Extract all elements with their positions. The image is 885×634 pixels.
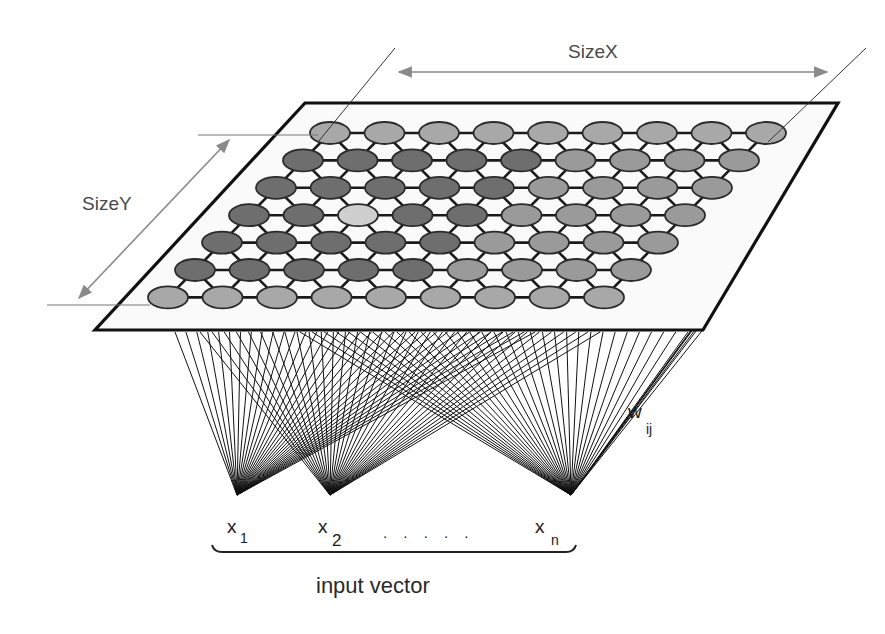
input-x1-main: x [227, 516, 237, 537]
lattice-node [557, 259, 597, 281]
lattice-node [583, 177, 623, 199]
lattice-node [365, 122, 405, 144]
input-labels: x 1 x 2 . . . . . x n [227, 516, 559, 550]
lattice-node [230, 259, 270, 281]
lattice-node [419, 122, 459, 144]
lattice-node [447, 149, 487, 171]
lattice-node [502, 259, 542, 281]
lattice-node [175, 259, 215, 281]
lattice-node [583, 122, 623, 144]
lattice-node [257, 286, 297, 308]
lattice-node [420, 232, 460, 254]
som-diagram: SizeX SizeY w ij x 1 x 2 . . . . . x n i… [0, 0, 885, 634]
lattice-node [283, 149, 323, 171]
weights-label-main: w [627, 401, 642, 422]
lattice-node [365, 177, 405, 199]
input-xn-main: x [535, 516, 545, 537]
lattice-node [338, 149, 378, 171]
lattice-node [638, 232, 678, 254]
lattice-node [203, 286, 243, 308]
lattice-node [474, 177, 514, 199]
lattice-node [338, 204, 378, 226]
lattice-node [284, 204, 324, 226]
lattice-node [637, 122, 677, 144]
lattice-node [448, 259, 488, 281]
lattice-node [530, 286, 570, 308]
lattice-node [310, 122, 350, 144]
weights-label-sub: ij [646, 421, 652, 437]
lattice-node [229, 204, 269, 226]
lattice-node [501, 149, 541, 171]
lattice-node [256, 177, 296, 199]
lattice-node [611, 259, 651, 281]
input-x2-sub: 2 [332, 531, 341, 550]
lattice-node [202, 232, 242, 254]
input-vector-caption: input vector [316, 573, 430, 598]
lattice-node [528, 122, 568, 144]
lattice-node [393, 259, 433, 281]
lattice-node [339, 259, 379, 281]
lattice-node [257, 232, 297, 254]
lattice-node [719, 149, 759, 171]
lattice-node [665, 149, 705, 171]
lattice-node [366, 286, 406, 308]
input-x1-sub: 1 [240, 530, 248, 546]
lattice-node [692, 177, 732, 199]
input-brace [212, 545, 576, 552]
input-dots: . . . . . [383, 524, 475, 541]
lattice-node [447, 204, 487, 226]
lattice-node [474, 122, 514, 144]
lattice-node [692, 122, 732, 144]
lattice-node [611, 204, 651, 226]
lattice-node [584, 232, 624, 254]
lattice-node [366, 232, 406, 254]
lattice-node [529, 232, 569, 254]
lattice-node [311, 232, 351, 254]
lattice-node [148, 286, 188, 308]
lattice-node [556, 149, 596, 171]
lattice-node [529, 177, 569, 199]
lattice-node [610, 149, 650, 171]
input-x2-main: x [318, 516, 328, 537]
lattice-node [665, 204, 705, 226]
lattice-node [638, 177, 678, 199]
lattice-node [421, 286, 461, 308]
lattice-node [475, 286, 515, 308]
lattice-node [311, 177, 351, 199]
lattice-node [746, 122, 786, 144]
lattice-node [392, 149, 432, 171]
lattice-node [556, 204, 596, 226]
lattice-node [312, 286, 352, 308]
lattice-node [502, 204, 542, 226]
size-y-label: SizeY [82, 193, 132, 214]
lattice-node [393, 204, 433, 226]
lattice-node [284, 259, 324, 281]
lattice-node [420, 177, 460, 199]
lattice-node [584, 286, 624, 308]
size-x-label: SizeX [568, 41, 618, 62]
lattice-node [475, 232, 515, 254]
input-xn-sub: n [551, 532, 559, 548]
weights-label: w ij [627, 401, 652, 437]
